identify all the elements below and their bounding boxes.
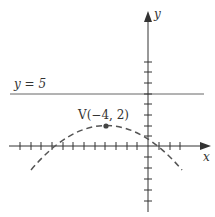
vertex-point xyxy=(103,123,108,128)
vertex-label: V(−4, 2) xyxy=(77,108,129,122)
x-axis xyxy=(9,142,204,150)
x-axis-label: x xyxy=(203,150,210,164)
directrix-label: y = 5 xyxy=(13,77,46,91)
y-axis xyxy=(144,16,152,212)
y-axis-label: y xyxy=(153,7,161,21)
x-axis-arrow-icon xyxy=(200,142,211,150)
parabola-diagram: y = 5 x y V(−4, 2) xyxy=(0,0,215,217)
y-axis-arrow-icon xyxy=(144,11,152,22)
